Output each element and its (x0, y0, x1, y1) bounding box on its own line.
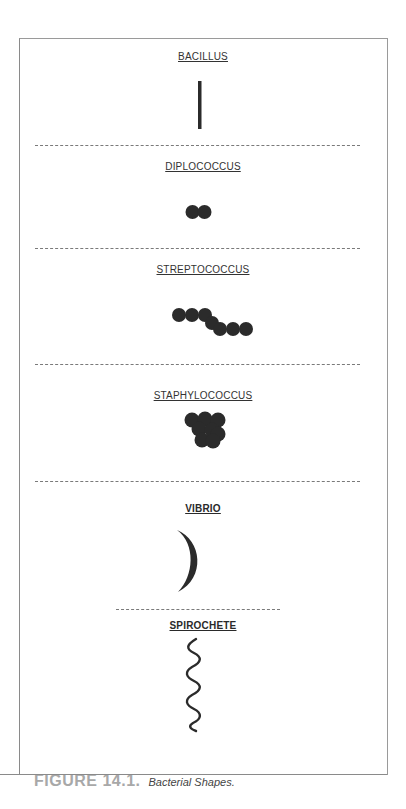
spirochete-spiral-icon (182, 637, 212, 733)
streptococcus-chain-icon (168, 305, 260, 341)
staphylococcus-cluster-icon (182, 410, 232, 454)
vibrio-crescent-icon (172, 528, 208, 594)
divider-1 (35, 145, 360, 146)
label-vibrio: VIBRIO (0, 503, 406, 514)
diplococcus-icon (184, 203, 216, 221)
bacillus-rod-icon (196, 80, 204, 130)
divider-2 (35, 248, 360, 249)
divider-3 (35, 364, 360, 365)
label-diplococcus: DIPLOCOCCUS (0, 161, 406, 172)
bottom-rule (0, 774, 387, 775)
label-staphylococcus: STAPHYLOCOCCUS (0, 390, 406, 401)
label-streptococcus: STREPTOCOCCUS (0, 264, 406, 275)
divider-5 (116, 609, 280, 610)
label-spirochete: SPIROCHETE (0, 620, 406, 631)
label-bacillus: BACILLUS (0, 51, 406, 62)
divider-4 (35, 481, 360, 482)
figure-caption-text: Bacterial Shapes. (148, 776, 234, 788)
